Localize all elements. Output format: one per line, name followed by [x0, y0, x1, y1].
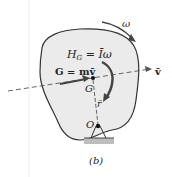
pivot-label: O [86, 119, 94, 130]
linear-momentum-label: G = mv̄ [55, 66, 96, 77]
ground [84, 138, 114, 144]
angular-momentum-label: HG = Īω [66, 48, 112, 62]
figure-caption: (b) [89, 155, 103, 166]
pivot-point [96, 124, 100, 128]
center-of-mass-point [91, 76, 95, 80]
velocity-label: v̄ [154, 66, 162, 77]
omega-label: ω [122, 18, 130, 29]
center-of-mass-label: G [85, 83, 93, 94]
velocity-arrowhead [145, 66, 152, 72]
rigid-body-momentum-diagram: ω v̄ HG = Īω G = mv̄ G r̄ O (b) [0, 0, 172, 177]
